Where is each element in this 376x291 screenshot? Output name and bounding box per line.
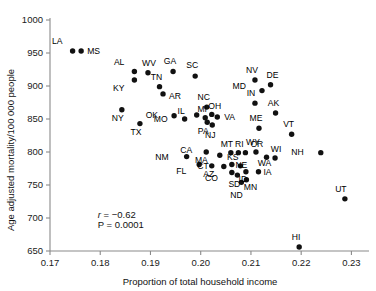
data-point-label: WV <box>142 58 156 68</box>
y-axis-tick-label: 950 <box>27 47 43 58</box>
data-point <box>268 82 273 87</box>
data-point-label: MT <box>221 139 234 149</box>
data-point <box>203 115 208 120</box>
x-axis: 0.170.180.190.200.210.220.23 <box>41 251 369 268</box>
data-point <box>171 113 176 118</box>
data-point <box>182 116 187 121</box>
y-axis-tick-label: 750 <box>27 179 43 190</box>
data-point-label: OH <box>208 101 221 111</box>
data-point-label: CA <box>180 145 192 155</box>
data-point-label: TX <box>130 127 141 137</box>
y-axis-tick-label: 700 <box>27 212 43 223</box>
data-point-label: AK <box>268 98 280 108</box>
data-point-label: NV <box>246 65 258 75</box>
x-axis-tick-label: 0.23 <box>342 257 361 268</box>
data-point-label: GA <box>164 56 177 66</box>
data-point-label: SC <box>186 60 198 70</box>
data-point <box>318 150 323 155</box>
data-point-label: NY <box>112 113 124 123</box>
x-axis-tick-label: 0.21 <box>242 257 261 268</box>
data-point-label: NJ <box>205 130 216 140</box>
data-point-label: AL <box>114 57 125 67</box>
data-point-label: WY <box>246 137 260 147</box>
data-point <box>229 170 234 175</box>
data-point <box>252 77 257 82</box>
data-point <box>256 169 261 174</box>
data-point <box>132 77 137 82</box>
y-axis-tick-label: 850 <box>27 113 43 124</box>
data-point-label: RI <box>235 139 244 149</box>
data-point-label: MI <box>197 104 207 114</box>
data-point-label: NM <box>155 152 168 162</box>
x-axis-tick-label: 0.18 <box>91 257 110 268</box>
data-point <box>229 162 234 167</box>
data-point-label: FL <box>176 166 186 176</box>
data-point <box>221 164 226 169</box>
data-point <box>137 121 142 126</box>
y-axis-tick-label: 800 <box>27 146 43 157</box>
data-point <box>170 69 175 74</box>
data-point <box>78 48 83 53</box>
data-point <box>119 107 124 112</box>
data-point-label: MS <box>87 46 100 56</box>
data-point <box>210 122 215 127</box>
data-point-label: LA <box>52 36 63 46</box>
data-point <box>157 84 162 89</box>
data-point-label: WI <box>271 144 282 154</box>
x-axis-tick-label: 0.22 <box>292 257 311 268</box>
data-point-label: UT <box>335 184 347 194</box>
data-point-label: AR <box>169 91 181 101</box>
data-point-label: TN <box>151 72 162 82</box>
data-point-label: HI <box>292 232 301 242</box>
stat-annotation: P = 0.0001 <box>98 219 144 230</box>
data-point <box>253 149 258 154</box>
data-point <box>205 120 210 125</box>
x-axis-tick-label: 0.20 <box>191 257 210 268</box>
data-point <box>259 88 264 93</box>
data-point <box>342 196 347 201</box>
data-point-label: NE <box>235 160 247 170</box>
data-point-label: KY <box>113 83 125 93</box>
data-point <box>215 114 220 119</box>
point-labels-layer: LAMSALWVKYTNARGASCNYTXOKMOILMINCOHPAVANJ… <box>52 36 347 242</box>
data-point <box>217 153 222 158</box>
y-axis-tick-label: 650 <box>27 245 43 256</box>
data-point-label: ME <box>250 113 263 123</box>
data-point <box>70 48 75 53</box>
data-point <box>273 110 278 115</box>
x-axis-tick-label: 0.17 <box>41 257 60 268</box>
data-point <box>209 163 214 168</box>
data-point-label: VT <box>283 119 295 129</box>
data-point <box>289 131 294 136</box>
data-point <box>296 244 301 249</box>
data-point <box>209 112 214 117</box>
y-axis-title: Age adjusted mortality/100 000 people <box>5 69 16 231</box>
data-point-label: IL <box>178 106 185 116</box>
data-point <box>160 91 165 96</box>
data-point <box>132 69 137 74</box>
data-point <box>204 149 209 154</box>
data-point <box>252 100 257 105</box>
y-axis-tick-label: 1000 <box>22 14 43 25</box>
statistics-annotations: r = −0.62P = 0.0001 <box>98 209 144 230</box>
data-point-label: VA <box>224 112 235 122</box>
data-point <box>256 126 261 131</box>
data-point <box>243 150 248 155</box>
y-axis: 6507007508008509009501000 <box>22 14 50 256</box>
data-point <box>272 155 277 160</box>
data-point-label: MD <box>233 81 246 91</box>
data-point-label: IA <box>263 167 271 177</box>
data-point-label: CO <box>205 173 218 183</box>
x-axis-title: Proportion of total household income <box>123 276 278 287</box>
scatter-plot-figure: 6507007508008509009501000 0.170.180.190.… <box>0 0 376 291</box>
data-point-label: IN <box>247 88 256 98</box>
x-axis-tick-label: 0.19 <box>141 257 160 268</box>
y-axis-tick-label: 900 <box>27 80 43 91</box>
data-point-label: MN <box>244 182 257 192</box>
data-point-label: ND <box>230 190 242 200</box>
data-point-label: NH <box>291 147 303 157</box>
data-point-label: CT <box>197 161 209 171</box>
data-point-label: DE <box>267 70 279 80</box>
data-point-label: MO <box>154 114 168 124</box>
data-point <box>192 73 197 78</box>
